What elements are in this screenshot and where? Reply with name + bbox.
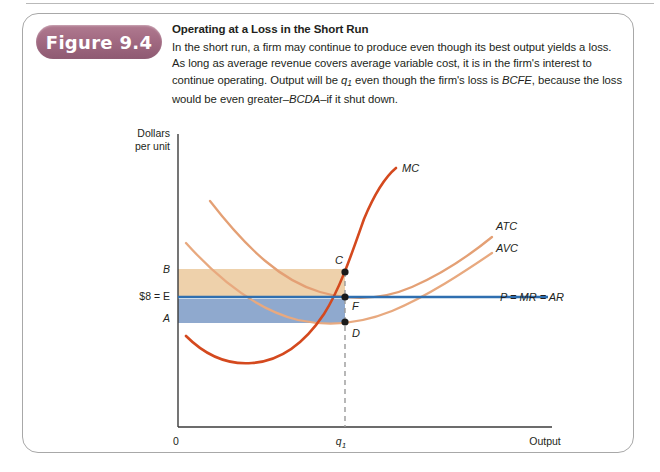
y-tick-label-b: B <box>163 263 170 275</box>
atc-curve-label: ATC <box>495 220 517 232</box>
y-axis-title-line1: Dollars <box>137 127 170 139</box>
mc-curve <box>186 168 396 363</box>
cost-curves-chart: C F D MC ATC AVC P = MR = AR B $8 = E A … <box>0 0 660 472</box>
x-tick-q-subscript: 1 <box>342 441 346 450</box>
y-axis-title-line2: per unit <box>135 140 170 152</box>
origin-label: 0 <box>173 435 179 447</box>
chart-plot-area: C F D MC ATC AVC P = MR = AR B $8 = E A … <box>0 0 660 472</box>
y-tick-label-a: A <box>162 312 170 324</box>
y-tick-label-e: $8 = E <box>139 290 170 302</box>
point-c-marker <box>341 268 348 275</box>
point-label-f: F <box>352 300 360 312</box>
price-line-label: P = MR = AR <box>500 291 564 303</box>
mc-curve-label: MC <box>402 162 419 174</box>
point-f-marker <box>341 293 348 300</box>
point-d-marker <box>341 318 348 325</box>
x-tick-label-q1: q1 <box>336 435 346 450</box>
avc-curve-label: AVC <box>495 242 518 254</box>
x-axis-title: Output <box>529 435 561 447</box>
point-label-c: C <box>335 254 343 266</box>
point-label-d: D <box>352 327 360 339</box>
